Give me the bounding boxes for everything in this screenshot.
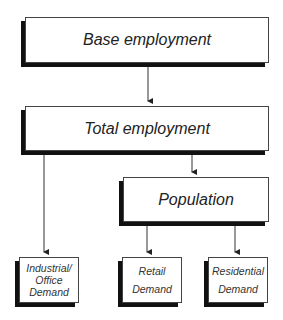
node-label-line: Demand	[132, 283, 172, 295]
node-residential-demand: Residential Demand	[208, 257, 268, 303]
node-label: Population	[158, 191, 234, 209]
node-base-employment: Base employment	[25, 17, 269, 63]
node-label: Total employment	[84, 120, 210, 138]
node-label-line: Demand	[218, 283, 258, 295]
node-label-line: Office	[35, 274, 62, 286]
node-retail-demand: Retail Demand	[122, 257, 182, 303]
node-label-line: Demand	[29, 286, 69, 298]
node-label-line: Residential	[212, 265, 264, 277]
node-total-employment: Total employment	[25, 106, 269, 151]
node-industrial-office-demand: Industrial/ Office Demand	[19, 257, 79, 303]
node-population: Population	[123, 177, 269, 222]
node-label: Base employment	[83, 31, 211, 49]
node-label-line: Industrial/	[26, 262, 72, 274]
flow-diagram: Base employment Total employment Populat…	[0, 0, 283, 320]
node-label-line: Retail	[139, 265, 166, 277]
